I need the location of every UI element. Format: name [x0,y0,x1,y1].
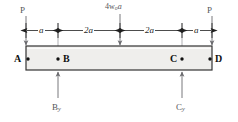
beam-free-body-diagram: P P 4woa a 2a 2a a A B C D By Cy [0,0,238,122]
reaction-cy-subscript: y [182,105,185,112]
beam-body [26,46,212,70]
node-label-a: A [14,54,21,64]
reaction-by-subscript: y [58,105,61,112]
load-label-p-right: P [207,6,212,15]
diagram-canvas [0,0,238,122]
reaction-label-cy: Cy [176,103,185,113]
node-dot-c [180,57,183,60]
reaction-label-by: By [52,103,61,113]
dimension-label-a-right: a [193,26,200,35]
node-label-d: D [215,54,222,64]
load-label-resultant: 4woa [105,3,122,12]
node-dot-a [26,57,29,60]
node-dot-b [56,57,59,60]
node-label-b: B [63,54,70,64]
resultant-base: 4w [105,2,115,11]
dimension-label-2a-left: 2a [83,26,94,35]
node-dot-d [208,57,211,60]
node-label-c: C [170,54,177,64]
resultant-suffix: a [118,2,122,11]
load-label-p-left: P [20,6,25,15]
dimension-label-2a-right: 2a [144,26,155,35]
dimension-label-a-left: a [38,26,45,35]
